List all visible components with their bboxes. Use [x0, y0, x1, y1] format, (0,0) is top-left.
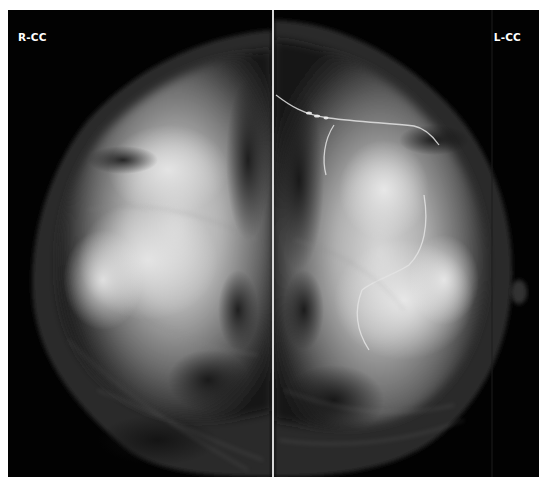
panel-l-cc[interactable]: L-CC	[274, 10, 539, 477]
view-label-r-cc: R-CC	[18, 31, 47, 43]
panel-r-cc[interactable]: R-CC	[8, 10, 272, 477]
view-label-l-cc: L-CC	[494, 31, 521, 43]
image-viewer: R-CC	[8, 10, 539, 477]
breast-image-r-cc	[8, 10, 272, 477]
breast-image-l-cc	[274, 10, 539, 477]
